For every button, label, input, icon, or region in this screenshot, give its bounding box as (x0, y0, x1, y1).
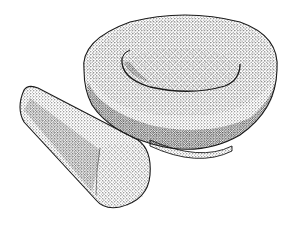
pestle-end-face (96, 142, 150, 207)
mortar-and-pestle-illustration (0, 0, 295, 225)
mortar-inner-bowl (120, 48, 240, 92)
